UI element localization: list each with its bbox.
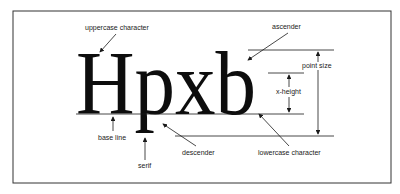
label-descender: descender [182,149,215,156]
label-lowercase-character: lowercase character [258,149,321,156]
lowercase-pointer-arrow [259,114,289,146]
label-serif: serif [138,162,151,169]
label-ascender: ascender [272,23,301,30]
typography-anatomy-diagram: Hpxb point size x-height uppercase chara… [0,0,400,194]
label-uppercase-character: uppercase character [85,24,149,32]
label-point-size: point size [302,62,332,70]
label-base-line: base line [98,134,126,141]
label-x-height: x-height [276,88,301,96]
